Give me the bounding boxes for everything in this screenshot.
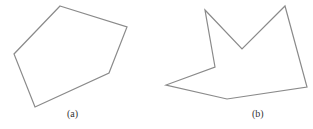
caption-b: (b): [252, 109, 264, 119]
caption-a: (a): [67, 109, 78, 119]
diagram-canvas: [0, 0, 313, 129]
concave-polygon-shape: [166, 6, 307, 99]
convex-pentagon-shape: [14, 6, 127, 107]
